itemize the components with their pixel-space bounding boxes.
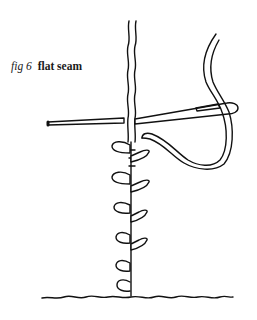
stitches: [112, 142, 149, 296]
thread: [142, 34, 232, 169]
base-line: [42, 296, 233, 298]
needle: [48, 103, 238, 125]
flat-seam-illustration: [0, 0, 257, 320]
